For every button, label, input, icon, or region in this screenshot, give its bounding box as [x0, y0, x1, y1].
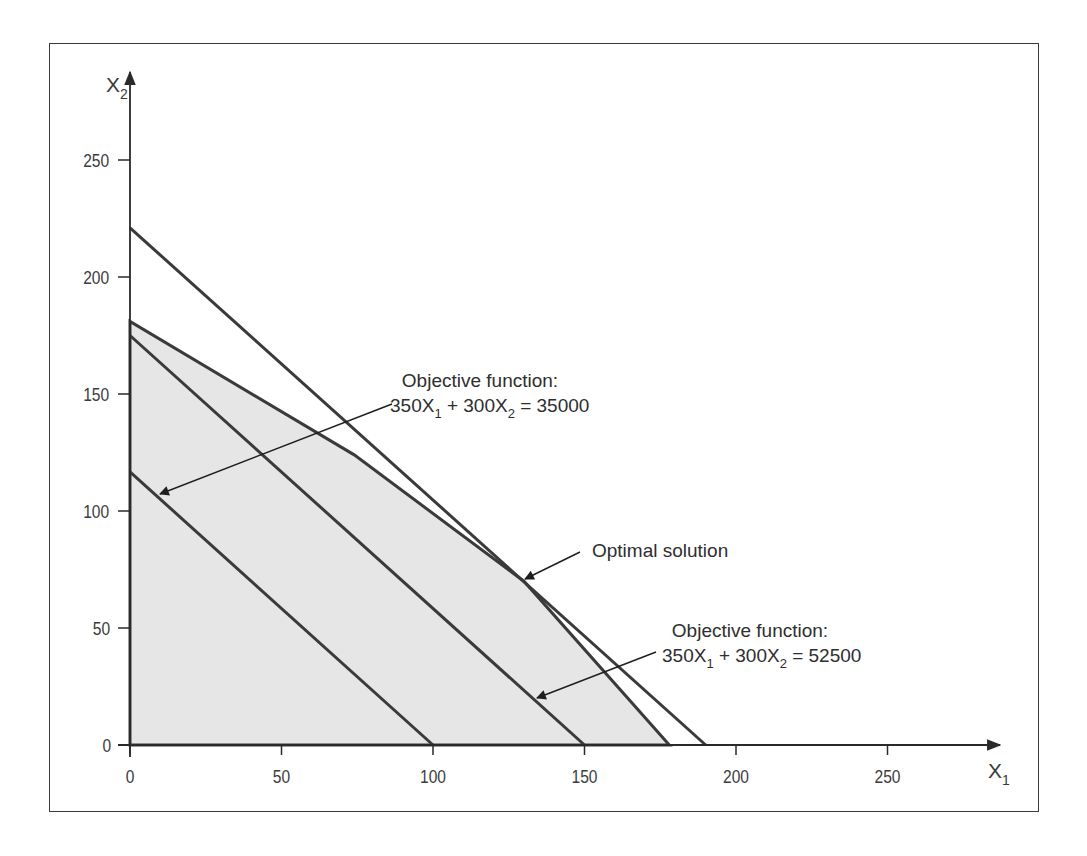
x-tick-label: 100	[420, 766, 446, 788]
y-tick-label: 150	[83, 384, 109, 406]
x-tick-label: 50	[273, 766, 290, 788]
annotation-obj2-equation: 350X1 + 300X2 = 52500	[662, 645, 861, 671]
y-tick-label: 50	[93, 618, 110, 640]
y-tick-label: 200	[83, 267, 109, 289]
y-tick-label: 250	[83, 150, 109, 172]
y-tick-label: 100	[83, 501, 109, 523]
annotation-obj1-equation: 350X1 + 300X2 = 35000	[390, 395, 589, 421]
x-tick-label: 0	[126, 766, 135, 788]
x-tick-label: 150	[572, 766, 598, 788]
y-axis-title: X2	[106, 73, 128, 102]
annotation-obj1-title: Objective function:	[402, 370, 558, 391]
x-tick-label: 200	[723, 766, 749, 788]
annotation-arrow-optimal	[525, 552, 580, 579]
y-ticks: 050100150200250	[83, 150, 130, 757]
x-ticks: 050100150200250	[126, 745, 901, 787]
annotation-obj2-title: Objective function:	[672, 620, 828, 641]
annotation-optimal-solution: Optimal solution	[592, 540, 728, 561]
y-tick-label: 0	[102, 735, 111, 757]
lp-graph: 050100150200250 050100150200250 X2 X1 Ob…	[0, 0, 1087, 856]
x-axis-title: X1	[988, 759, 1010, 788]
feasible-region	[130, 321, 669, 745]
x-tick-label: 250	[875, 766, 901, 788]
